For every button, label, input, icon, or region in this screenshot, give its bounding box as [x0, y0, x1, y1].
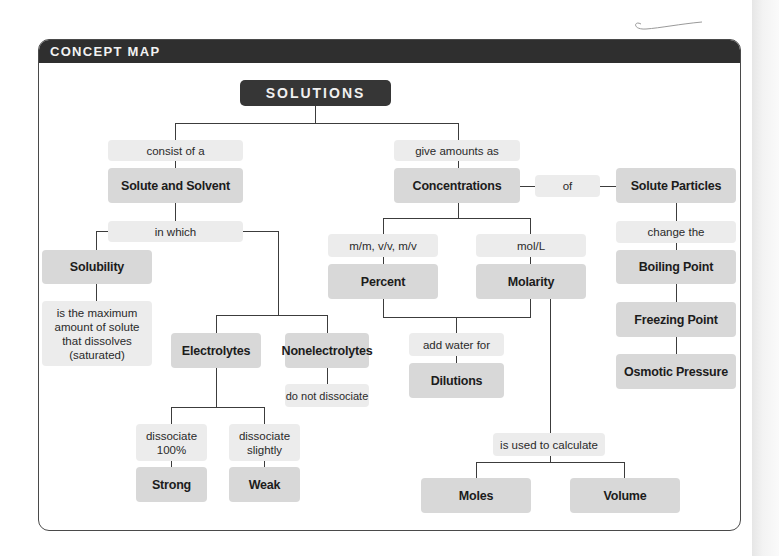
node-molarity: Molarity: [476, 264, 586, 299]
node-electrolytes: Electrolytes: [171, 333, 261, 368]
connector-line: [458, 123, 459, 140]
connector-line: [624, 462, 625, 478]
connector-line: [383, 218, 531, 219]
connector-line: [676, 243, 677, 250]
link-molarity-units: mol/L: [476, 234, 586, 257]
connector-line: [327, 368, 328, 384]
link-change-the: change the: [616, 221, 736, 243]
node-osmotic-pressure: Osmotic Pressure: [616, 354, 736, 389]
concept-map-header: CONCEPT MAP: [39, 40, 740, 63]
connector-line: [383, 299, 384, 317]
node-boiling-point: Boiling Point: [616, 250, 736, 284]
link-dissociate-slightly: dissociate slightly: [229, 424, 300, 461]
connector-line: [530, 218, 531, 234]
connector-line: [383, 257, 384, 264]
link-percent-units: m/m, v/v, m/v: [328, 234, 438, 257]
connector-line: [456, 317, 457, 333]
connector-line: [458, 161, 459, 168]
connector-line: [530, 299, 531, 317]
link-of: of: [535, 175, 600, 197]
connector-line: [456, 356, 457, 363]
connector-line: [676, 337, 677, 354]
connector-line: [264, 407, 265, 424]
connector-line: [175, 123, 176, 140]
connector-line: [175, 123, 459, 124]
page-edge-shadow: [752, 0, 779, 556]
connector-line: [315, 106, 316, 123]
connector-line: [476, 462, 625, 463]
connector-line: [96, 231, 97, 250]
link-dissociate-100: dissociate 100%: [136, 424, 207, 461]
node-weak: Weak: [229, 467, 300, 502]
node-volume: Volume: [570, 478, 680, 513]
node-dilutions: Dilutions: [409, 363, 504, 398]
connector-line: [530, 257, 531, 264]
connector-line: [476, 462, 477, 478]
node-freezing-point: Freezing Point: [616, 302, 736, 337]
pen-mark-decoration: [620, 18, 710, 38]
link-add-water-for: add water for: [409, 333, 504, 356]
link-used-to-calculate: is used to calculate: [493, 433, 605, 456]
link-give-amounts-as: give amounts as: [394, 140, 520, 161]
node-solutions: SOLUTIONS: [240, 80, 391, 106]
node-solute-and-solvent: Solute and Solvent: [108, 168, 243, 203]
node-strong: Strong: [136, 467, 207, 502]
link-consist-of: consist of a: [108, 140, 243, 161]
node-moles: Moles: [421, 478, 531, 513]
node-solute-particles: Solute Particles: [616, 168, 736, 203]
connector-line: [216, 315, 217, 333]
connector-line: [96, 284, 97, 301]
link-in-which: in which: [108, 221, 243, 242]
connector-line: [383, 317, 531, 318]
connector-line: [550, 299, 551, 433]
connector-line: [278, 231, 279, 316]
connector-line: [171, 407, 264, 408]
connector-line: [243, 231, 279, 232]
connector-line: [327, 315, 328, 333]
node-concentrations: Concentrations: [394, 168, 520, 203]
connector-line: [676, 284, 677, 302]
connector-line: [175, 161, 176, 168]
connector-line: [96, 231, 108, 232]
link-do-not-dissociate: do not dissociate: [285, 384, 369, 407]
connector-line: [216, 368, 217, 408]
connector-line: [175, 203, 176, 221]
node-percent: Percent: [328, 264, 438, 299]
connector-line: [520, 186, 535, 187]
connector-line: [171, 407, 172, 424]
connector-line: [216, 315, 328, 316]
connector-line: [600, 186, 616, 187]
connector-line: [458, 203, 459, 218]
connector-line: [676, 203, 677, 221]
link-solubility-description: is the maximum amount of solute that dis…: [42, 301, 152, 366]
node-solubility: Solubility: [42, 250, 152, 284]
node-nonelectrolytes: Nonelectrolytes: [285, 333, 369, 368]
connector-line: [383, 218, 384, 234]
